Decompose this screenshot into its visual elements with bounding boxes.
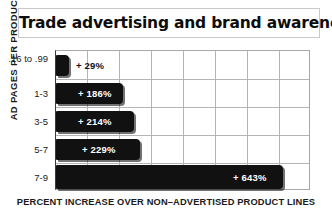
gridline-horizontal-2 [56,107,309,108]
bar-value-2: + 214% [78,116,112,127]
bar-value-1: + 186% [78,88,112,99]
gridline-horizontal-4 [56,163,309,164]
gridline-horizontal-1 [56,79,309,80]
y-tick-label-0: .16 to .99 [8,54,48,65]
y-tick-label-2: 3-5 [34,117,48,128]
y-tick-label-3: 5-7 [34,145,48,156]
bar-value-4: + 643% [233,172,267,183]
y-tick-label-1: 1-3 [34,89,48,100]
chart-figure: Trade advertising and brand awareness AD… [0,0,332,216]
y-tick-label-4: 7-9 [34,173,48,184]
bar-0 [56,55,69,76]
plot-area: + 29% + 186% + 214% + 229% + 643% [55,50,310,190]
page-title: Trade advertising and brand awareness [19,14,319,32]
y-axis-tick-labels: .16 to .99 1-3 3-5 5-7 7-9 [0,50,52,190]
chart-title-box: Trade advertising and brand awareness [18,8,320,38]
bar-value-3: + 229% [82,144,116,155]
bar-value-0: + 29% [76,60,104,71]
gridline-horizontal-3 [56,135,309,136]
y-tick-label-0-line1: .16 to [8,53,32,64]
x-axis-label: PERCENT INCREASE OVER NON–ADVERTISED PRO… [0,197,332,207]
y-tick-label-0-line2: .99 [35,53,48,64]
